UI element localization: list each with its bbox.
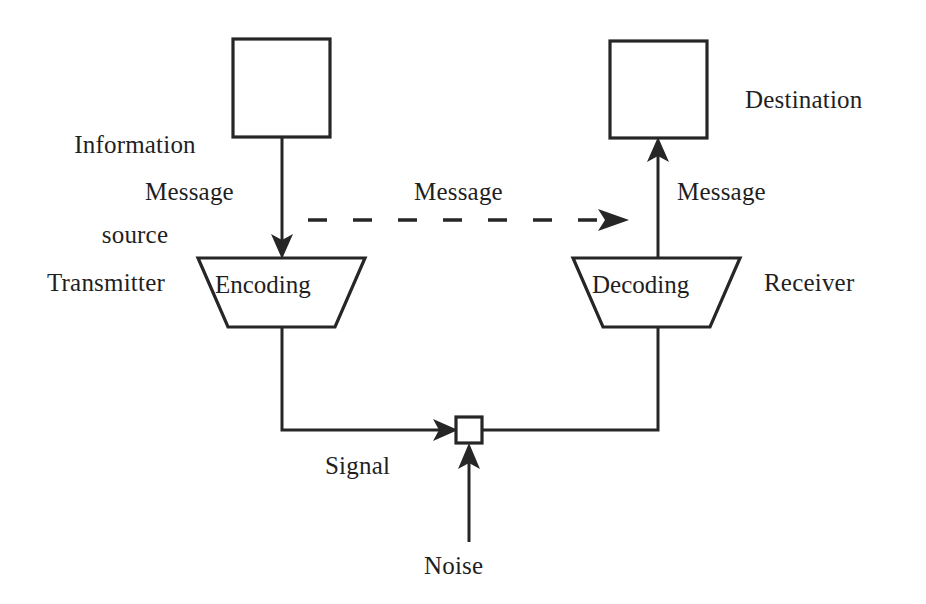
receiver-label: Receiver [764, 268, 854, 298]
destination-label: Destination [745, 85, 862, 115]
diagram-canvas-root: Information source Destination Message M… [0, 0, 926, 604]
message-dashed-arrowhead [598, 209, 629, 231]
signal-receiver-leg [482, 327, 658, 430]
message-middle-label: Message [414, 177, 503, 207]
encoding-label: Encoding [215, 271, 311, 299]
information-source-label-line2: source [50, 220, 220, 250]
message-right-label: Message [677, 177, 766, 207]
signal-label: Signal [325, 451, 390, 481]
message-left-label: Message [145, 177, 234, 207]
noise-label: Noise [424, 551, 483, 581]
transmitter-label: Transmitter [47, 268, 165, 298]
signal-noise-junction-box [456, 417, 482, 443]
decoding-label: Decoding [592, 271, 689, 299]
information-source-box [233, 39, 330, 137]
information-source-label-line1: Information [50, 130, 220, 160]
destination-box [610, 41, 707, 138]
signal-transmitter-leg [282, 327, 442, 430]
